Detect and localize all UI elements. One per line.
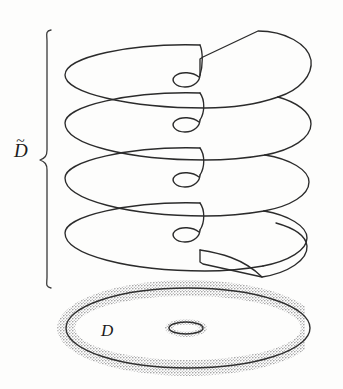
spiral-turn-1-upper bbox=[65, 45, 278, 108]
spiral-inner-loop-2 bbox=[173, 118, 200, 132]
tilde-accent-icon: ~ bbox=[16, 133, 24, 149]
diagram-svg bbox=[0, 0, 343, 389]
spiral-cover-group bbox=[65, 31, 311, 277]
spiral-inner-loop-3 bbox=[173, 173, 200, 187]
spiral-turn-1-right-lobe bbox=[265, 97, 311, 155]
spiral-turn-3-right-lobe bbox=[263, 211, 307, 266]
figure-canvas: ~D D bbox=[0, 0, 343, 389]
extent-brace bbox=[40, 30, 51, 288]
spiral-turn-4-upper bbox=[65, 203, 263, 271]
cover-label: ~D bbox=[14, 141, 28, 160]
spiral-turn-2-upper bbox=[65, 93, 265, 160]
cover-label-glyph: ~D bbox=[14, 141, 28, 160]
spiral-turn-2-joint bbox=[200, 93, 204, 120]
spiral-turn-3-joint bbox=[200, 148, 204, 175]
base-label: D bbox=[101, 322, 113, 339]
spiral-inner-loop-4 bbox=[173, 228, 200, 242]
spiral-top-cut-edge bbox=[200, 31, 311, 97]
spiral-turn-2-right-lobe bbox=[264, 155, 309, 211]
spiral-inner-loop-1 bbox=[173, 73, 200, 87]
base-hole-halo bbox=[155, 310, 220, 346]
brace-path bbox=[40, 30, 51, 288]
